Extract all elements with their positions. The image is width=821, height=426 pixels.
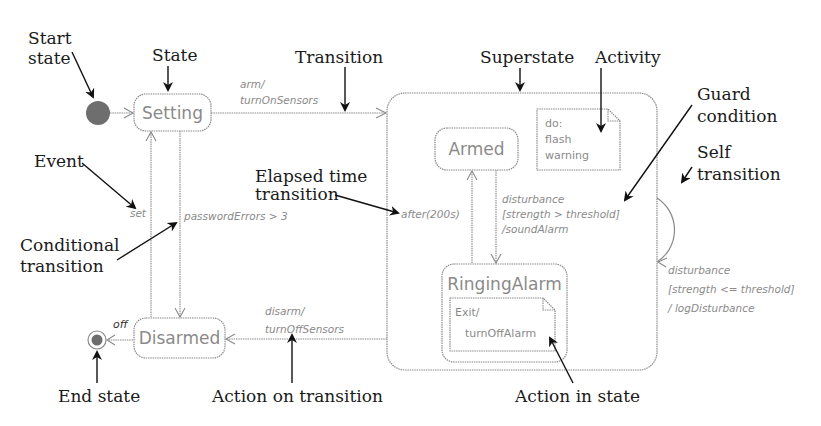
callout-arrow-icon [82, 163, 135, 208]
annotation-guard-condition-line-2: condition [697, 106, 778, 126]
state-ringing-alarm-label: RingingAlarm [447, 274, 561, 294]
transition-disarm-event: disarm/ [265, 305, 306, 317]
callout-arrow-icon [117, 223, 176, 260]
activity-note-line-3: warning [545, 149, 589, 162]
end-state-node[interactable] [88, 331, 106, 349]
state-machine-diagram: Setting arm/ turnOnSensors set passwordE… [0, 0, 821, 426]
start-state-node[interactable] [86, 101, 110, 125]
annotation-start-state-line-1: Start [28, 28, 72, 48]
activity-note-line-1: do: [545, 117, 562, 130]
transition-disturbance-high-action: /soundAlarm [501, 223, 569, 235]
annotation-self-transition-line-1: Self [697, 142, 732, 162]
annotation-start-state-line-2: state [28, 48, 71, 68]
transition-self-action: / logDisturbance [667, 302, 754, 314]
annotation-conditional-transition-line-2: transition [20, 256, 104, 276]
state-armed-label: Armed [448, 139, 504, 159]
transition-arm-event: arm/ [240, 78, 266, 90]
exit-action-note[interactable]: Exit/ turnOffAlarm [450, 298, 555, 351]
annotation-conditional-transition-line-1: Conditional [20, 235, 120, 255]
activity-note-line-2: flash [545, 133, 571, 146]
transition-self-guard: [strength <= threshold] [668, 283, 795, 295]
callout-arrow-icon [72, 52, 93, 97]
annotation-event: Event [34, 151, 84, 171]
transition-set-label: set [130, 207, 147, 219]
state-armed[interactable]: Armed [435, 128, 518, 170]
state-setting[interactable]: Setting [134, 94, 211, 131]
exit-action-note-line-2: turnOffAlarm [465, 327, 536, 340]
annotation-superstate: Superstate [480, 47, 574, 67]
transition-password-errors-label: passwordErrors > 3 [183, 210, 288, 222]
transition-disturbance-high-event: disturbance [502, 193, 564, 205]
transition-disarm-action: turnOffSensors [265, 323, 345, 335]
callout-arrow-icon [682, 167, 692, 182]
annotation-guard-condition-line-1: Guard [697, 84, 751, 104]
annotation-transition: Transition [295, 47, 383, 67]
annotation-elapsed-time-line-2: transition [255, 184, 339, 204]
state-disarmed[interactable]: Disarmed [134, 318, 225, 358]
annotation-action-on-transition: Action on transition [211, 386, 383, 406]
transition-after-label: after(200s) [401, 208, 460, 220]
annotation-state: State [152, 45, 198, 65]
state-ringing-alarm[interactable]: RingingAlarm Exit/ turnOffAlarm [442, 264, 567, 362]
annotation-end-state: End state [58, 386, 140, 406]
exit-action-note-line-1: Exit/ [455, 306, 480, 319]
transition-self-event: disturbance [668, 264, 730, 276]
transition-off-label: off [113, 318, 129, 331]
annotation-action-in-state: Action in state [514, 386, 640, 406]
annotation-elapsed-time-line-1: Elapsed time [255, 166, 367, 186]
annotation-activity: Activity [594, 47, 661, 67]
transition-arm-action: turnOnSensors [240, 94, 319, 106]
annotation-self-transition-line-2: transition [697, 164, 781, 184]
state-setting-label: Setting [142, 103, 203, 123]
activity-note[interactable]: do: flash warning [537, 109, 620, 170]
transition-disturbance-high-guard: [strength > threshold] [502, 208, 620, 220]
state-disarmed-label: Disarmed [139, 328, 221, 348]
